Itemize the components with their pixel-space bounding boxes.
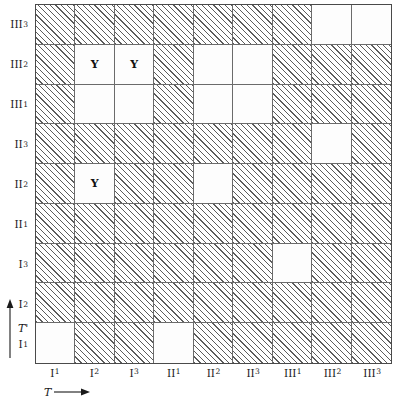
matrix-cell xyxy=(115,283,154,323)
matrix-cell xyxy=(352,323,391,363)
column-label-main: II xyxy=(246,367,254,379)
cell-label: Y xyxy=(91,59,99,70)
matrix-cell xyxy=(352,204,391,244)
matrix-cell xyxy=(233,164,272,204)
matrix-cell xyxy=(194,45,233,85)
column-label-main: I xyxy=(129,367,133,379)
matrix-cell: Y xyxy=(75,45,114,85)
matrix-cell xyxy=(36,204,75,244)
row-label: I3 xyxy=(0,244,32,284)
column-label-subscript: 1 xyxy=(176,367,181,376)
column-label-subscript: 3 xyxy=(134,367,139,376)
matrix-cell xyxy=(36,323,75,363)
matrix-grid: YYY xyxy=(35,4,392,364)
matrix-cell xyxy=(194,244,233,284)
y-axis-annotation: T' xyxy=(5,296,35,360)
matrix-cell xyxy=(352,5,391,45)
matrix-cell xyxy=(233,244,272,284)
matrix-cell xyxy=(154,204,193,244)
column-label: II1 xyxy=(154,366,194,382)
column-label: III3 xyxy=(352,366,392,382)
column-label: I1 xyxy=(35,366,75,382)
matrix-cell: Y xyxy=(75,164,114,204)
column-label-main: III xyxy=(324,367,336,379)
matrix-cell xyxy=(312,164,351,204)
column-label: I2 xyxy=(75,366,115,382)
row-label-subscript: 3 xyxy=(23,260,28,269)
matrix-cell xyxy=(194,124,233,164)
column-label-subscript: 3 xyxy=(376,367,381,376)
x-axis-label: T xyxy=(44,386,51,399)
column-label-main: I xyxy=(90,367,94,379)
matrix-cell xyxy=(273,323,312,363)
matrix-cell xyxy=(312,5,351,45)
matrix-cell xyxy=(273,5,312,45)
matrix-cell xyxy=(154,124,193,164)
matrix-cell xyxy=(273,85,312,125)
matrix-cell xyxy=(36,124,75,164)
matrix-cell xyxy=(115,5,154,45)
row-label-main: I xyxy=(19,258,23,270)
matrix-cell xyxy=(115,323,154,363)
matrix-cell: Y xyxy=(115,45,154,85)
matrix-cell xyxy=(233,323,272,363)
matrix-cell xyxy=(36,85,75,125)
cell-label: Y xyxy=(91,178,99,189)
matrix-cell xyxy=(154,244,193,284)
matrix-cell xyxy=(273,164,312,204)
matrix-cell xyxy=(154,5,193,45)
matrix-cell xyxy=(273,244,312,284)
column-label-main: III xyxy=(284,367,296,379)
column-label: II2 xyxy=(194,366,234,382)
row-label-main: III xyxy=(10,18,22,30)
column-label-subscript: 1 xyxy=(55,367,60,376)
matrix-cell xyxy=(312,45,351,85)
row-label-main: II xyxy=(14,138,22,150)
matrix-cell xyxy=(115,244,154,284)
matrix-cell xyxy=(312,323,351,363)
matrix-cell xyxy=(233,5,272,45)
matrix-cell xyxy=(273,124,312,164)
matrix-cell xyxy=(154,45,193,85)
column-label-main: I xyxy=(50,367,54,379)
right-arrow-icon xyxy=(54,387,90,397)
row-label: II2 xyxy=(0,164,32,204)
matrix-cell xyxy=(115,124,154,164)
matrix-cell xyxy=(154,85,193,125)
column-label-main: II xyxy=(167,367,175,379)
column-label-subscript: 2 xyxy=(215,367,220,376)
matrix-cell xyxy=(36,45,75,85)
row-label-main: III xyxy=(10,58,22,70)
matrix-cell xyxy=(154,164,193,204)
matrix-cell xyxy=(233,124,272,164)
matrix-cell xyxy=(115,164,154,204)
row-label-main: III xyxy=(10,98,22,110)
column-label-main: III xyxy=(363,367,375,379)
matrix-cell xyxy=(352,45,391,85)
row-label-subscript: 1 xyxy=(23,220,28,229)
matrix-cell xyxy=(194,5,233,45)
x-axis-annotation: T xyxy=(44,384,90,400)
column-label-subscript: 2 xyxy=(336,367,341,376)
matrix-cell xyxy=(233,204,272,244)
matrix-cell xyxy=(194,323,233,363)
matrix-cell xyxy=(75,204,114,244)
column-axis-labels: I1I2I3II1II2II3III1III2III3 xyxy=(35,366,392,382)
row-label-subscript: 3 xyxy=(23,20,28,29)
row-label-main: II xyxy=(14,178,22,190)
matrix-cell xyxy=(352,124,391,164)
matrix-cell xyxy=(115,85,154,125)
column-label: III2 xyxy=(313,366,353,382)
column-label: II3 xyxy=(233,366,273,382)
column-label-main: II xyxy=(207,367,215,379)
y-axis-label: T' xyxy=(18,322,28,335)
matrix-cell xyxy=(352,164,391,204)
matrix-cell xyxy=(352,85,391,125)
figure-root: III3III2III1II3II2II1I3I2I1 YYY I1I2I3II… xyxy=(0,0,400,403)
matrix-cell xyxy=(233,85,272,125)
matrix-cell xyxy=(273,45,312,85)
column-label: III1 xyxy=(273,366,313,382)
row-label-subscript: 2 xyxy=(23,180,28,189)
column-label-subscript: 3 xyxy=(255,367,260,376)
column-label-subscript: 2 xyxy=(94,367,99,376)
